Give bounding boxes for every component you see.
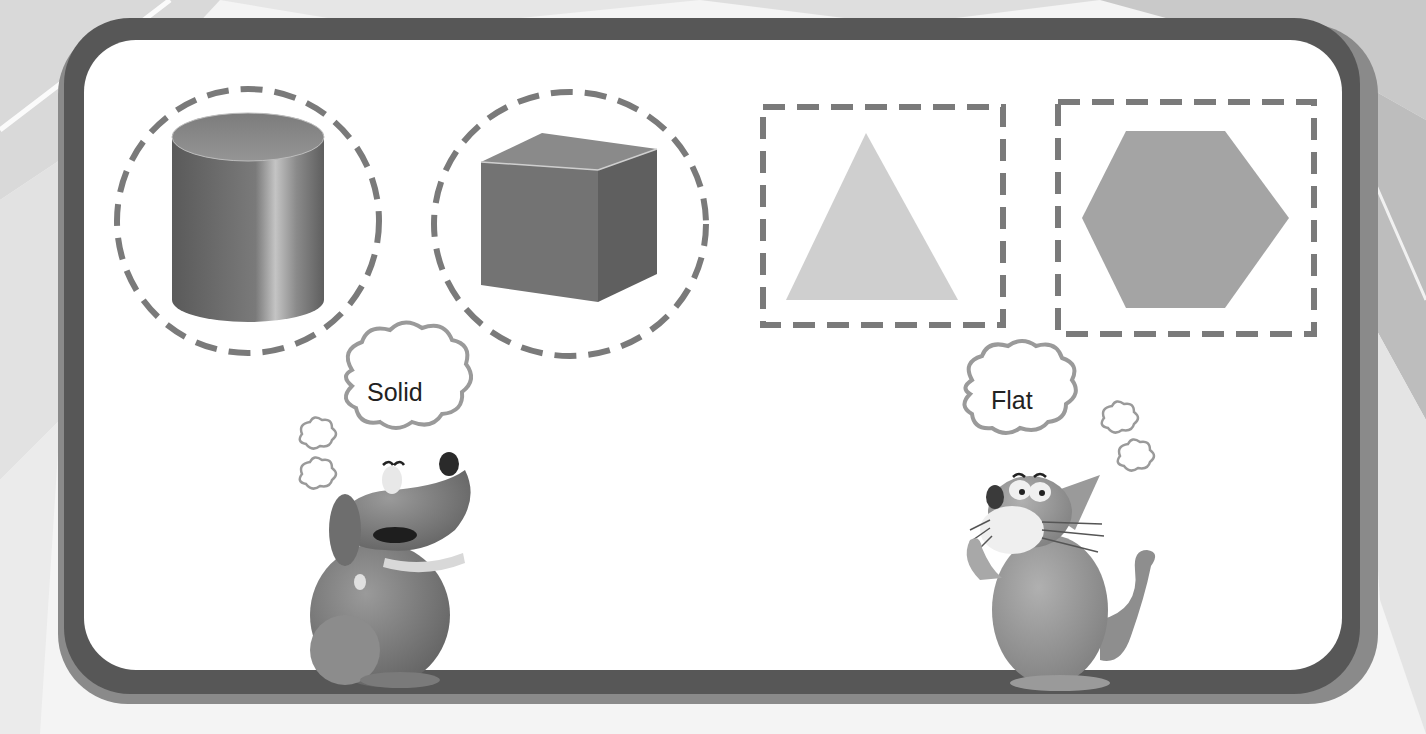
cylinder-shape [117,89,379,353]
illustration [0,0,1426,734]
cat-character [967,474,1155,691]
hexagon-shape [1058,102,1314,334]
cat-thought-text: Flat [991,386,1033,415]
cube-shape [434,92,706,356]
dog-thought-text: Solid [367,378,423,407]
triangle-shape [763,107,1003,325]
dog-character [310,452,471,688]
